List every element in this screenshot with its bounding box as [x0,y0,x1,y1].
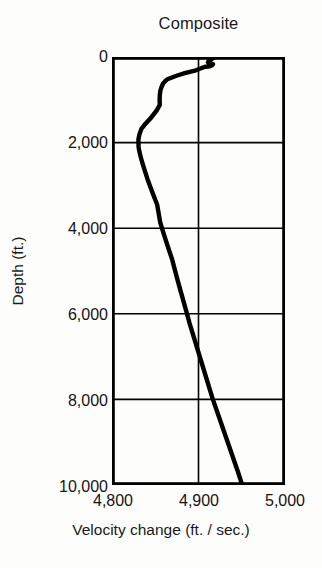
y-axis-title: Depth (ft.) [9,191,27,351]
y-tick-label-8000: 8,000 [68,393,108,409]
x-axis-title: Velocity change (ft. / sec.) [0,521,322,539]
x-tick-label-4900: 4,900 [179,492,219,510]
plot-svg [112,57,285,485]
plot-area [112,57,285,485]
x-tick-label-5000: 5,000 [265,492,305,510]
velocity-log-curve [138,57,242,485]
velocity-depth-chart-figure: Composite 0 2,000 4,000 6,000 8,000 10,0… [0,0,322,568]
x-axis-tick-label-group: 4,800 4,900 5,000 [0,492,322,516]
y-tick-label-0: 0 [99,49,108,65]
x-tick-label-4800: 4,800 [93,492,133,510]
y-tick-label-2000: 2,000 [68,135,108,151]
y-tick-label-6000: 6,000 [68,307,108,323]
y-tick-label-4000: 4,000 [68,221,108,237]
chart-title: Composite [112,14,285,33]
